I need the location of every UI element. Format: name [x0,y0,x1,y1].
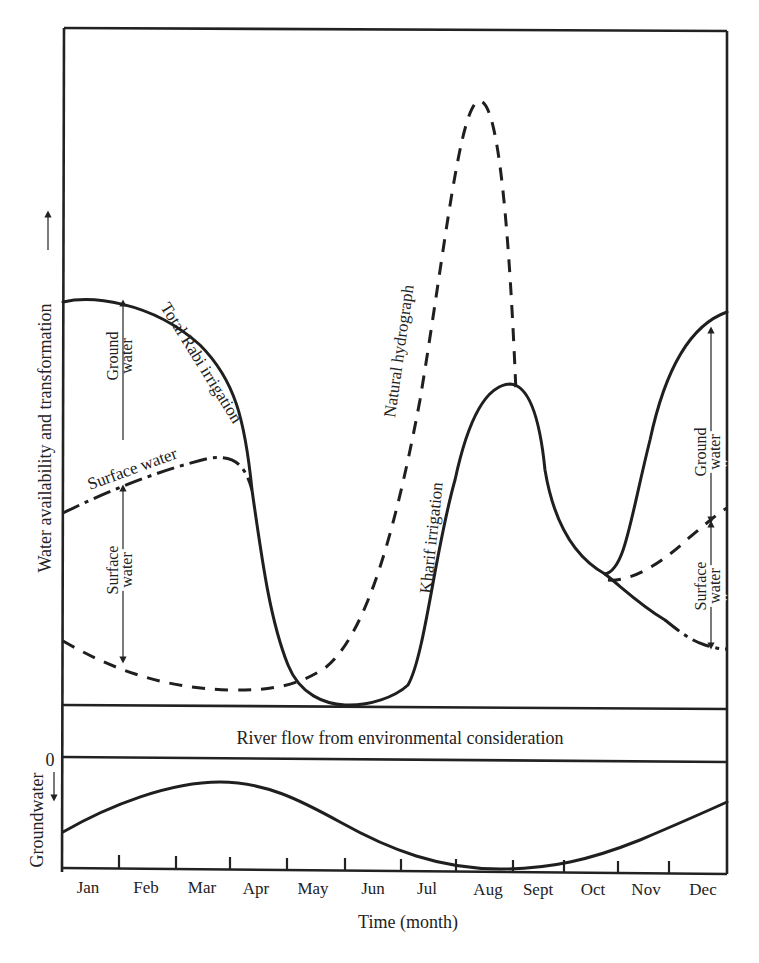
month-label-apr: Apr [243,879,270,898]
groundwater-curve [63,782,727,869]
river-flow-band: River flow from environmental considerat… [63,705,727,762]
surface-water-annotation-left: Surface water [104,488,135,660]
month-label-may: May [297,879,329,898]
svg-text:water: water [706,568,723,604]
month-label-nov: Nov [631,880,661,899]
y-axis-title-upper: Water availability and transformation [35,214,55,572]
chart: River flow from environmental considerat… [0,0,759,963]
surface-water-annotation-right: Surface water [692,524,723,646]
month-label-sept: Sept [523,880,554,899]
month-label-jan: Jan [77,878,100,897]
total-rabi-label: Total Rabi irrigation [157,299,247,427]
total-rabi-irrigation-curve [63,300,605,705]
month-label-jul: Jul [417,879,437,898]
ground-water-annotation-right: Ground water [692,330,723,520]
natural-hydrograph-curve [63,101,516,690]
x-tick-labels: Jan Feb Mar Apr May Jun Jul Aug Sept Oct… [77,878,717,899]
surface-water-curve-label: Surface water [85,444,180,494]
month-label-mar: Mar [188,878,217,897]
y-axis-title-lower-text: Groundwater [27,773,47,868]
natural-hydrograph-label: Natural hydrograph [380,283,417,418]
svg-text:water: water [706,434,723,470]
y-axis-title-upper-text: Water availability and transformation [35,304,55,573]
month-label-feb: Feb [133,878,159,897]
ground-water-annotation-left: Ground water [104,303,135,440]
y-axis-title-lower: Groundwater 0 [27,750,55,867]
surface-water-curve-right [665,620,727,649]
month-label-jun: Jun [361,879,385,898]
x-axis-title: Time (month) [358,912,458,933]
svg-text:water: water [118,552,135,588]
month-label-dec: Dec [689,880,717,899]
month-label-aug: Aug [473,880,503,899]
zero-label: 0 [46,750,55,770]
month-label-oct: Oct [581,880,606,899]
river-flow-label: River flow from environmental considerat… [237,728,564,748]
svg-text:water: water [118,338,135,374]
